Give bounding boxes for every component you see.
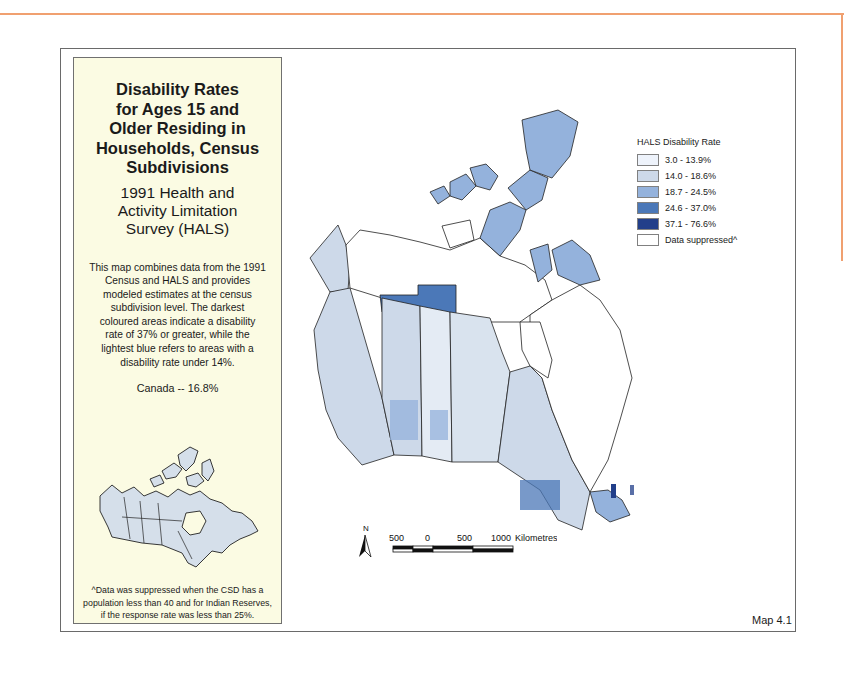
legend-swatch <box>637 154 659 166</box>
footnote-line: if the response rate was less than 25%. <box>76 609 279 622</box>
map-subtitle: 1991 Health and Activity Limitation Surv… <box>74 184 281 238</box>
description-line: Census and HALS and provides <box>80 274 275 288</box>
description-line: This map combines data from the 1991 <box>80 261 275 275</box>
subtitle-line: Survey (HALS) <box>74 220 281 238</box>
north-label: N <box>363 524 369 533</box>
title-line: Households, Census <box>74 139 281 159</box>
north-arrow-icon: N <box>359 524 371 557</box>
legend-item: 3.0 - 13.9% <box>637 152 737 167</box>
legend-item: 18.7 - 24.5% <box>637 184 737 199</box>
footnote-line: ^Data was suppressed when the CSD has a <box>76 584 279 597</box>
map-title: Disability Rates for Ages 15 and Older R… <box>74 80 281 178</box>
legend: HALS Disability Rate 3.0 - 13.9% 14.0 - … <box>637 137 737 248</box>
legend-swatch <box>637 218 659 230</box>
description-line: modeled estimates at the census <box>80 288 275 302</box>
map-description: This map combines data from the 1991 Cen… <box>80 261 275 370</box>
title-line: Disability Rates <box>74 80 281 100</box>
map-number-label: Map 4.1 <box>752 614 836 672</box>
scale-tick: 500 <box>389 533 404 543</box>
inset-map-canada <box>82 441 274 576</box>
scale-tick: 1000 <box>491 533 511 543</box>
legend-item: Data suppressed^ <box>637 232 737 247</box>
legend-label: Data suppressed^ <box>665 235 737 245</box>
description-line: coloured areas indicate a disability <box>80 315 275 329</box>
scale-unit: Kilometres <box>515 533 557 543</box>
subtitle-line: 1991 Health and <box>74 184 281 202</box>
legend-swatch <box>637 202 659 214</box>
description-line: subdivision level. The darkest <box>80 301 275 315</box>
legend-label: 14.0 - 18.6% <box>665 171 716 181</box>
description-line: rate of 37% or greater, while the <box>80 328 275 342</box>
info-panel: Disability Rates for Ages 15 and Older R… <box>73 57 282 624</box>
legend-title: HALS Disability Rate <box>637 137 737 147</box>
side-accent-rule <box>841 13 843 261</box>
legend-item: 14.0 - 18.6% <box>637 168 737 183</box>
legend-label: 24.6 - 37.0% <box>665 203 716 213</box>
description-line: disability rate under 14%. <box>80 356 275 370</box>
title-line: for Ages 15 and <box>74 100 281 120</box>
legend-label: 37.1 - 76.6% <box>665 219 716 229</box>
legend-item: 24.6 - 37.0% <box>637 200 737 215</box>
top-accent-rule <box>0 13 844 15</box>
scale-tick: 500 <box>457 533 472 543</box>
legend-swatch <box>637 186 659 198</box>
subtitle-line: Activity Limitation <box>74 202 281 220</box>
legend-label: 3.0 - 13.9% <box>665 155 711 165</box>
description-line: lightest blue refers to areas with a <box>80 342 275 356</box>
scale-bar: N 500 0 500 1000 Kilometres <box>357 523 557 559</box>
footnote-line: population less than 40 and for Indian R… <box>76 597 279 610</box>
legend-label: 18.7 - 24.5% <box>665 187 716 197</box>
title-line: Older Residing in <box>74 119 281 139</box>
scale-tick: 0 <box>425 533 430 543</box>
legend-item: 37.1 - 76.6% <box>637 216 737 231</box>
suppression-footnote: ^Data was suppressed when the CSD has a … <box>76 584 279 622</box>
legend-swatch <box>637 234 659 246</box>
title-line: Subdivisions <box>74 158 281 178</box>
legend-swatch <box>637 170 659 182</box>
national-rate: Canada -- 16.8% <box>74 382 281 394</box>
